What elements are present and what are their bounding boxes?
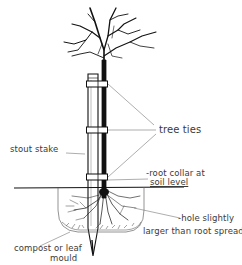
roots	[66, 188, 140, 228]
label-root-collar-line2: soil level	[150, 177, 188, 187]
tree-tie-middle	[87, 127, 108, 133]
label-compost-line2: mould	[50, 253, 77, 263]
ground-line	[14, 187, 184, 188]
tree-tie-upper	[87, 81, 108, 87]
label-compost-line1: compost or leaf	[14, 243, 82, 253]
label-stout-stake: stout stake	[10, 144, 58, 154]
tree-crown	[64, 8, 156, 62]
label-hole-line1: -hole slightly	[178, 213, 234, 223]
tree-tie-lower	[87, 174, 108, 180]
stake	[88, 74, 98, 256]
leader-lines	[40, 84, 180, 246]
compost-layer	[62, 222, 141, 230]
label-hole-line2: larger than root spread	[143, 226, 242, 236]
label-tree-ties: tree ties	[159, 125, 201, 135]
